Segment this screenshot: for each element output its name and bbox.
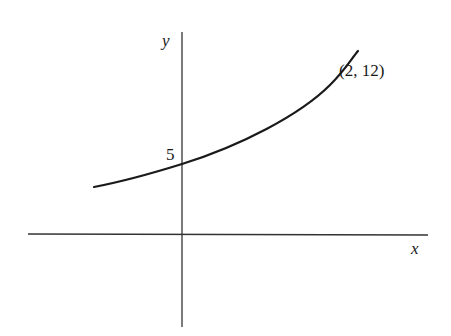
- y-intercept-label: 5: [166, 145, 175, 164]
- point-label: (2, 12): [339, 61, 384, 80]
- function-curve: [94, 51, 358, 187]
- x-axis-label: x: [410, 239, 419, 258]
- function-graph: y x 5 (2, 12): [0, 0, 451, 336]
- x-axis: [28, 234, 428, 235]
- y-axis-label: y: [160, 31, 170, 50]
